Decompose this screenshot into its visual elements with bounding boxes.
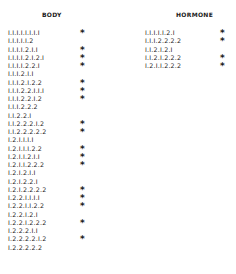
asterisk-marker-icon: * bbox=[80, 235, 85, 243]
code-label: I.I.I.2.I.2.2 bbox=[8, 79, 42, 87]
hormone-column-title: HORMONE bbox=[176, 11, 213, 18]
body-code-row: I.2.2.2.2.I.2* bbox=[8, 235, 88, 243]
code-label: I.2.2.I.I.I.I bbox=[8, 194, 40, 202]
body-code-row: I.2.2.I.2.2.2* bbox=[8, 219, 88, 227]
code-label: I.2.2.I.I.2.2 bbox=[8, 202, 44, 210]
body-code-row: I.I.I.I.2.I.I* bbox=[8, 46, 88, 54]
asterisk-marker-icon: * bbox=[80, 95, 85, 103]
code-label: I.2.I.I.I.I bbox=[8, 136, 34, 144]
code-label: I.2.I.I.2.2.2 bbox=[145, 62, 181, 70]
asterisk-marker-icon: * bbox=[80, 219, 85, 227]
body-code-row: I.I.I.2.2.I.I.I* bbox=[8, 87, 88, 95]
hormone-code-row: I.I.2.I.2.2.2* bbox=[145, 54, 227, 62]
code-label: I.2.2.I.2.I bbox=[8, 211, 38, 219]
code-label: I.I.I.I.I.2 bbox=[8, 37, 34, 45]
body-code-row: I.I.I.I.I.2 bbox=[8, 37, 88, 45]
body-column-title: BODY bbox=[42, 11, 62, 18]
code-label: I.I.I.I.2.2.I bbox=[8, 62, 40, 70]
code-label: I.I.2.2.I bbox=[8, 112, 31, 120]
code-label: I.2.I.2.2.I bbox=[8, 178, 38, 186]
body-code-row: I.I.I.I.I.I.I.I* bbox=[8, 29, 88, 37]
code-label: I.2.I.2.2.2.2 bbox=[8, 186, 46, 194]
asterisk-marker-icon: * bbox=[220, 62, 225, 70]
hormone-code-row: I.I.I.I.I.2.I* bbox=[145, 29, 227, 37]
body-code-row: I.2.2.I.2.I bbox=[8, 211, 88, 219]
body-code-row: I.2.I.I.2.I.I* bbox=[8, 153, 88, 161]
body-code-row: I.2.2.I.I.2.2* bbox=[8, 202, 88, 210]
body-code-row: I.2.2.2.I.I bbox=[8, 227, 88, 235]
code-label: I.2.I.I.2.2.2 bbox=[8, 161, 44, 169]
code-label: I.I.I.2.2.2.2 bbox=[145, 37, 181, 45]
asterisk-marker-icon: * bbox=[220, 37, 225, 45]
code-label: I.I.2.2.2.2.2 bbox=[8, 128, 46, 136]
body-code-row: I.I.I.2.2.2 bbox=[8, 103, 88, 111]
body-code-row: I.2.I.I.I.I bbox=[8, 136, 88, 144]
body-code-row: I.I.2.2.I bbox=[8, 112, 88, 120]
asterisk-marker-icon: * bbox=[80, 62, 85, 70]
hormone-code-list: I.I.I.I.I.2.I*I.I.I.2.2.2.2*I.I.2.I.2.II… bbox=[145, 29, 227, 70]
asterisk-marker-icon: * bbox=[80, 161, 85, 169]
code-label: I.I.I.I.2.I.2.I bbox=[8, 54, 44, 62]
asterisk-marker-icon: * bbox=[80, 202, 85, 210]
body-code-row: I.2.I.I.I.2.2* bbox=[8, 145, 88, 153]
hormone-code-row: I.I.I.2.2.2.2* bbox=[145, 37, 227, 45]
body-code-row: I.I.I.2.I.I bbox=[8, 70, 88, 78]
body-code-row: I.2.I.2.I.I bbox=[8, 169, 88, 177]
code-label: I.2.2.I.2.2.2 bbox=[8, 219, 46, 227]
code-label: I.I.2.I.2.2.2 bbox=[145, 54, 181, 62]
code-label: I.2.2.2.2.2 bbox=[8, 244, 42, 252]
code-label: I.I.I.2.2.I.2 bbox=[8, 95, 42, 103]
body-code-row: I.I.I.I.2.I.2.I* bbox=[8, 54, 88, 62]
body-code-row: I.I.2.2.2.I.2* bbox=[8, 120, 88, 128]
body-code-row: I.I.I.2.I.2.2* bbox=[8, 79, 88, 87]
hormone-code-row: I.2.I.I.2.2.2* bbox=[145, 62, 227, 70]
body-code-row: I.2.2.I.I.I.I* bbox=[8, 194, 88, 202]
code-label: I.I.2.2.2.I.2 bbox=[8, 120, 44, 128]
hormone-code-row: I.I.2.I.2.I bbox=[145, 46, 227, 54]
code-label: I.2.I.I.I.2.2 bbox=[8, 145, 42, 153]
code-label: I.I.I.I.2.I.I bbox=[8, 46, 38, 54]
body-code-row: I.I.I.2.2.I.2* bbox=[8, 95, 88, 103]
asterisk-marker-icon: * bbox=[80, 29, 85, 37]
body-code-row: I.2.2.2.2.2 bbox=[8, 244, 88, 252]
asterisk-marker-icon: * bbox=[80, 128, 85, 136]
code-label: I.I.I.I.I.2.I bbox=[145, 29, 175, 37]
body-code-list: I.I.I.I.I.I.I.I*I.I.I.I.I.2I.I.I.I.2.I.I… bbox=[8, 29, 88, 252]
code-label: I.2.2.2.I.I bbox=[8, 227, 38, 235]
code-label: I.I.2.I.2.I bbox=[145, 46, 173, 54]
body-code-row: I.2.I.2.2.2.2* bbox=[8, 186, 88, 194]
code-label: I.I.I.2.2.I.I.I bbox=[8, 87, 44, 95]
body-code-row: I.I.2.2.2.2.2* bbox=[8, 128, 88, 136]
code-label: I.I.I.2.I.I bbox=[8, 70, 34, 78]
code-label: I.I.I.2.2.2 bbox=[8, 103, 38, 111]
code-label: I.I.I.I.I.I.I.I bbox=[8, 29, 40, 37]
body-code-row: I.2.I.2.2.I bbox=[8, 178, 88, 186]
body-code-row: I.I.I.I.2.2.I* bbox=[8, 62, 88, 70]
code-label: I.2.I.I.2.I.I bbox=[8, 153, 40, 161]
code-label: I.2.2.2.2.I.2 bbox=[8, 235, 46, 243]
code-label: I.2.I.2.I.I bbox=[8, 169, 36, 177]
body-code-row: I.2.I.I.2.2.2* bbox=[8, 161, 88, 169]
